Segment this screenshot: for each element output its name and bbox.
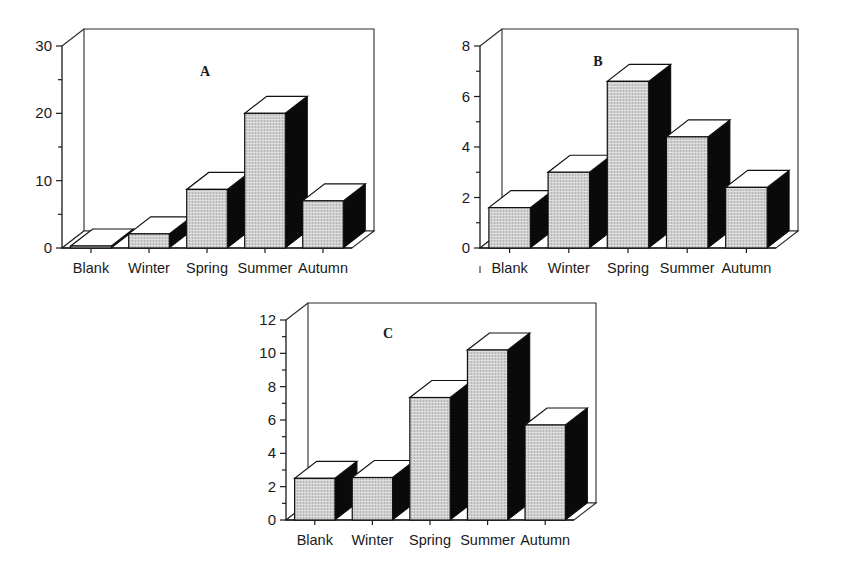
panel-letter-label: C [383, 326, 393, 341]
y-tick-label: 10 [259, 344, 276, 361]
bar-side-face [565, 408, 587, 520]
bar-front-face [410, 398, 450, 521]
chart-b: 02468BlankWinterSpringSummerAutumnB [462, 29, 798, 276]
y-tick-label: 0 [462, 239, 470, 256]
bar-chart-a: 0102030BlankWinterSpringSummerAutumnA [0, 14, 430, 294]
chart-c: 024681012BlankWinterSpringSummerAutumnC [259, 303, 596, 548]
figure-canvas: 0102030BlankWinterSpringSummerAutumnA 02… [0, 0, 856, 568]
x-category-label: Summer [460, 532, 515, 548]
x-category-label: Spring [607, 260, 649, 276]
chart-panel-b: 02468BlankWinterSpringSummerAutumnB [428, 14, 856, 294]
bar-group [666, 120, 729, 248]
bar-group [187, 172, 250, 248]
bar-group [410, 381, 472, 521]
y-tick-label: 2 [268, 478, 276, 495]
x-category-label: Blank [297, 532, 334, 548]
bar-front-face [295, 478, 335, 520]
bar-group [525, 408, 587, 520]
x-category-label: Spring [409, 532, 451, 548]
x-category-label: Winter [128, 260, 170, 276]
bar-front-face [548, 172, 589, 248]
y-tick-label: 20 [35, 104, 52, 121]
bar-front-face [666, 137, 707, 248]
y-tick-label: 10 [35, 172, 52, 189]
y-tick-label: 0 [268, 511, 276, 528]
bar-front-face [525, 425, 565, 520]
bar-group [548, 155, 611, 248]
y-tick-label: 0 [44, 239, 52, 256]
y-tick-label: 6 [268, 411, 276, 428]
bar-chart-c: 024681012BlankWinterSpringSummerAutumnC [228, 288, 640, 568]
bar-group [245, 96, 308, 248]
y-tick-label: 30 [35, 37, 52, 54]
x-category-label: Summer [660, 260, 715, 276]
x-category-label: Autumn [520, 532, 570, 548]
y-tick-label: 4 [268, 444, 276, 461]
x-category-label: Spring [186, 260, 228, 276]
x-category-label: Autumn [298, 260, 348, 276]
y-tick-label: 12 [259, 311, 276, 328]
bar-front-face [129, 234, 170, 248]
plot-left-wall-edges [62, 29, 84, 248]
bar-chart-b: 02468BlankWinterSpringSummerAutumnB [428, 14, 856, 294]
chart-panel-a: 0102030BlankWinterSpringSummerAutumnA [0, 14, 430, 294]
bar-front-face [607, 81, 648, 248]
x-category-label: Winter [351, 532, 393, 548]
bar-front-face [489, 208, 530, 248]
bar-front-face [303, 201, 344, 248]
y-tick-label: 8 [268, 378, 276, 395]
panel-letter-label: B [593, 54, 602, 69]
x-category-label: Winter [548, 260, 590, 276]
bar-group [607, 64, 670, 248]
x-category-label: Summer [238, 260, 293, 276]
bar-group [726, 170, 789, 248]
x-category-label: Blank [491, 260, 528, 276]
bar-front-face [71, 246, 112, 248]
y-tick-label: 2 [462, 189, 470, 206]
chart-panel-c: 024681012BlankWinterSpringSummerAutumnC [228, 288, 640, 568]
panel-letter-label: A [200, 64, 211, 79]
y-tick-label: 4 [462, 138, 470, 155]
bar-front-face [187, 189, 228, 248]
y-tick-label: 6 [462, 88, 470, 105]
bar-front-face [726, 187, 767, 248]
bar-group [303, 184, 366, 248]
bar-front-face [245, 113, 286, 248]
y-tick-label: 8 [462, 37, 470, 54]
bar-front-face [352, 478, 392, 521]
x-category-label: Autumn [721, 260, 771, 276]
chart-a: 0102030BlankWinterSpringSummerAutumnA [35, 29, 374, 276]
x-category-label: Blank [73, 260, 110, 276]
bar-front-face [467, 350, 507, 520]
bar-group [467, 333, 529, 520]
